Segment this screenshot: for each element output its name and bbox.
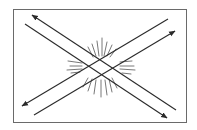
diagram-frame — [14, 10, 187, 123]
crossing-lines-diagram — [0, 0, 197, 130]
